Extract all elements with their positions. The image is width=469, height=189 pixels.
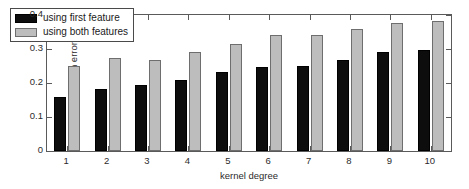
- y-axis-tick-label: 0: [3, 145, 43, 155]
- bar-first-feature-degree-10: [418, 50, 430, 151]
- x-axis-tick-label: 6: [253, 155, 283, 166]
- y-axis-tick-label: 0.3: [3, 43, 43, 53]
- legend-swatch-both-features: [15, 28, 37, 37]
- bar-both-features-degree-6: [270, 35, 282, 151]
- x-axis-tick-mark-top: [148, 15, 149, 20]
- x-axis-tick-label: 3: [132, 155, 162, 166]
- bar-both-features-degree-7: [311, 35, 323, 151]
- bar-first-feature-degree-5: [216, 72, 228, 151]
- bar-both-features-degree-5: [230, 44, 242, 151]
- bar-first-feature-degree-3: [135, 85, 147, 151]
- x-axis-tick-label: 2: [92, 155, 122, 166]
- bar-both-features-degree-4: [189, 52, 201, 151]
- legend-item-both-features: using both features: [15, 26, 128, 38]
- bar-first-feature-degree-9: [377, 52, 389, 151]
- y-axis-tick-mark: [47, 83, 52, 84]
- x-axis-tick-mark-top: [350, 15, 351, 20]
- bar-first-feature-degree-8: [337, 60, 349, 151]
- x-axis-tick-label: 10: [415, 155, 445, 166]
- legend-label-both-features: using both features: [43, 27, 128, 37]
- x-axis-tick-mark-top: [390, 15, 391, 20]
- x-axis-tick-label: 1: [51, 155, 81, 166]
- y-axis-tick-mark: [47, 117, 52, 118]
- y-axis-tick-mark-right: [446, 83, 451, 84]
- y-axis-tick-mark-right: [446, 151, 451, 152]
- x-axis-tick-label: 8: [334, 155, 364, 166]
- bar-first-feature-degree-1: [54, 97, 66, 151]
- y-axis-tick-mark-right: [446, 15, 451, 16]
- bar-both-features-degree-1: [68, 66, 80, 151]
- y-axis-tick-mark-right: [446, 117, 451, 118]
- y-axis-tick-mark: [47, 151, 52, 152]
- bar-first-feature-degree-7: [297, 66, 309, 151]
- y-axis-tick-label: 0.2: [3, 77, 43, 87]
- bar-both-features-degree-10: [432, 21, 444, 151]
- y-axis-tick-mark: [47, 49, 52, 50]
- x-axis-tick-mark-top: [188, 15, 189, 20]
- bar-both-features-degree-8: [351, 29, 363, 151]
- x-axis-tick-label: 4: [172, 155, 202, 166]
- bar-first-feature-degree-2: [95, 89, 107, 151]
- bar-first-feature-degree-6: [256, 67, 268, 151]
- y-axis-tick-label: 0.1: [3, 111, 43, 121]
- x-axis-tick-mark-top: [310, 15, 311, 20]
- x-axis-tick-mark-top: [431, 15, 432, 20]
- x-axis-tick-label: 9: [374, 155, 404, 166]
- x-axis-tick-mark-top: [229, 15, 230, 20]
- x-axis-tick-mark-top: [269, 15, 270, 20]
- legend-label-first-feature: using first feature: [43, 13, 120, 23]
- figure-canvas: generalization error kernel degree using…: [0, 0, 469, 189]
- x-axis-tick-label: 7: [294, 155, 324, 166]
- bar-both-features-degree-2: [109, 58, 121, 152]
- x-axis-tick-label: 5: [213, 155, 243, 166]
- y-axis-tick-mark-right: [446, 49, 451, 50]
- bar-first-feature-degree-4: [175, 80, 187, 151]
- bar-both-features-degree-9: [391, 23, 403, 151]
- x-axis-label: kernel degree: [46, 170, 452, 181]
- bar-both-features-degree-3: [149, 60, 161, 151]
- y-axis-tick-label: 0.4: [3, 9, 43, 19]
